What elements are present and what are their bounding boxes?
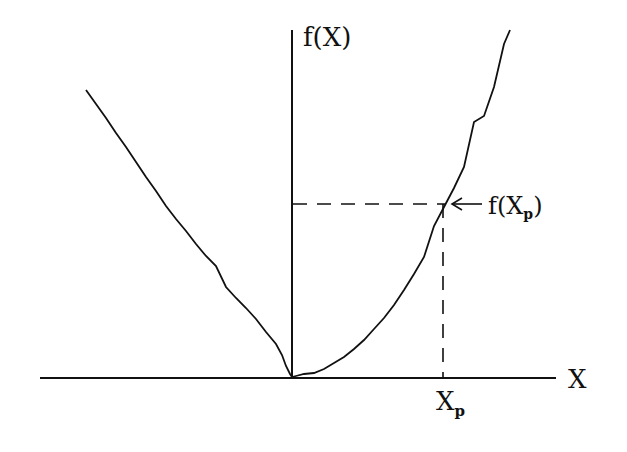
y-axis-label: f(X) <box>303 22 351 52</box>
parabola-diagram: f(X) f(Xp) X Xp <box>0 0 627 452</box>
xp-label: Xp <box>436 386 465 420</box>
fxp-label-suffix: ) <box>533 192 542 220</box>
fxp-label: f(Xp) <box>488 192 543 222</box>
x-axis-label: X <box>568 364 587 394</box>
fxp-label-prefix: f( <box>488 192 506 220</box>
parabola-curve <box>86 0 510 377</box>
fxp-label-main: X <box>506 192 523 220</box>
fxp-label-sub: p <box>523 206 533 222</box>
xp-label-main: X <box>436 386 455 416</box>
xp-label-sub: p <box>455 402 466 420</box>
